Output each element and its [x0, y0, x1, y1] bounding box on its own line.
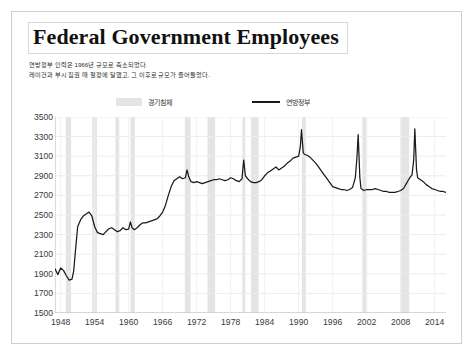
x-axis-labels: 1948195419601966197219781984199019962002…	[55, 317, 446, 333]
legend-label-federal: 연방정부	[286, 97, 310, 107]
y-axis-tick-label: 1700	[19, 288, 53, 298]
legend-item-federal: 연방정부	[252, 97, 310, 107]
y-axis-tick-label: 2100	[19, 249, 53, 259]
x-axis-tick-label: 1948	[51, 317, 70, 327]
x-axis-tick-label: 1972	[187, 317, 206, 327]
y-axis-labels: 1500170019002100230025002700290031003300…	[15, 117, 53, 313]
x-axis-tick-label: 2014	[425, 317, 444, 327]
y-axis-tick-label: 1500	[19, 308, 53, 318]
y-axis-tick-label: 3500	[19, 112, 53, 122]
y-axis-tick-label: 1900	[19, 269, 53, 279]
y-axis-tick-label: 3300	[19, 132, 53, 142]
y-axis-tick-label: 2700	[19, 190, 53, 200]
x-axis-tick-label: 2002	[357, 317, 376, 327]
plot-area	[55, 117, 446, 313]
series-line-federal	[55, 129, 446, 280]
page-title: Federal Government Employees	[33, 25, 339, 50]
y-axis-tick-label: 2900	[19, 171, 53, 181]
x-axis-tick-label: 1960	[119, 317, 138, 327]
x-axis-tick-label: 1996	[323, 317, 342, 327]
y-axis-tick-label: 3100	[19, 151, 53, 161]
legend-item-recession: 경기침체	[116, 97, 172, 107]
chart-subtitle: 연방정부 인력은 1966년 규모로 축소되었다. 레이건과 부시 집권 때 절…	[29, 60, 210, 80]
x-axis-tick-label: 1966	[153, 317, 172, 327]
recession-swatch-icon	[116, 98, 142, 106]
y-axis-tick-label: 2500	[19, 210, 53, 220]
x-axis-tick-label: 1984	[255, 317, 274, 327]
chart-figure: Federal Government Employees 연방정부 인력은 19…	[11, 11, 462, 344]
x-axis-tick-label: 1990	[289, 317, 308, 327]
y-axis-tick-label: 2300	[19, 230, 53, 240]
subtitle-line-1: 연방정부 인력은 1966년 규모로 축소되었다.	[29, 60, 210, 70]
legend-label-recession: 경기침체	[148, 97, 172, 107]
plot-svg	[55, 117, 446, 313]
chart-legend: 경기침체 연방정부	[12, 96, 463, 112]
subtitle-line-2: 레이건과 부시 집권 때 절정에 달했고, 그 이후로 규모가 줄어들었다.	[29, 70, 210, 80]
x-axis-tick-label: 1954	[85, 317, 104, 327]
x-axis-tick-label: 1978	[221, 317, 240, 327]
x-axis-tick-label: 2008	[391, 317, 410, 327]
chart-title-box: Federal Government Employees	[28, 22, 348, 54]
federal-line-swatch-icon	[252, 101, 280, 103]
